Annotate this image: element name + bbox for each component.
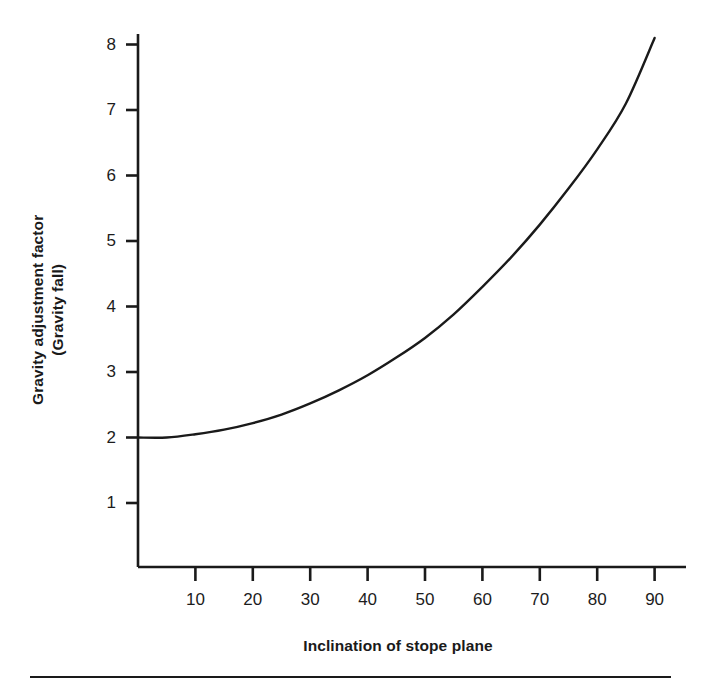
figure-gravity-adjustment-factor: Gravity adjustment factor (Gravity fall)… (0, 0, 701, 695)
y-axis-tick-label: 2 (90, 429, 116, 446)
x-axis-tick-label: 30 (290, 591, 330, 608)
x-axis-tick-label: 90 (635, 591, 675, 608)
x-axis-title: Inclination of stope plane (138, 637, 658, 655)
y-axis-tick-label: 3 (90, 363, 116, 380)
x-axis-tick-label: 70 (520, 591, 560, 608)
y-axis-tick-label: 4 (90, 298, 116, 315)
x-axis-tick-label: 40 (348, 591, 388, 608)
y-axis-tick-label: 8 (90, 36, 116, 53)
x-axis-tick-label: 10 (175, 591, 215, 608)
x-axis-tick-label: 20 (233, 591, 273, 608)
y-axis-tick-label: 1 (90, 494, 116, 511)
y-axis-tick-label: 5 (90, 232, 116, 249)
x-axis-tick-label: 60 (462, 591, 502, 608)
data-curve-gravity-adjustment-factor (138, 38, 655, 438)
y-axis-tick-label: 6 (90, 167, 116, 184)
x-axis-ticks (195, 567, 654, 581)
x-axis-tick-label: 80 (577, 591, 617, 608)
y-axis-ticks (126, 45, 138, 504)
y-axis-tick-label: 7 (90, 101, 116, 118)
caption-divider-rule (30, 676, 671, 678)
x-axis-tick-label: 50 (405, 591, 445, 608)
